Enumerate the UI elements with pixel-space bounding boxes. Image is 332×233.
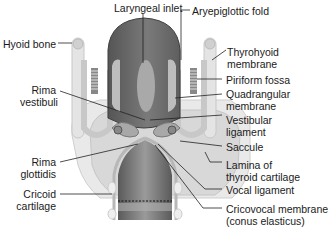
label-vocal-ligament: Vocal ligament (226, 184, 294, 196)
label-rima-vestibuli: Rima vestibuli (20, 84, 56, 108)
label-quadrangular-membrane: Quadrangular membrane (226, 88, 290, 112)
label-piriform-fossa: Piriform fossa (226, 74, 290, 86)
label-lamina-thyroid-cartilage: Lamina of thyroid cartilage (226, 159, 300, 183)
label-rima-glottidis: Rima glottidis (10, 156, 56, 180)
saccule-shape (168, 126, 176, 134)
label-saccule: Saccule (226, 141, 263, 153)
piriform-fossa-right (190, 68, 197, 94)
label-aryepiglottic-fold: Aryepiglottic fold (192, 5, 269, 17)
label-cricoid-cartilage: Cricoid cartilage (10, 188, 56, 212)
label-thyrohyoid-membrane: Thyrohyoid membrane (227, 46, 279, 70)
label-vestibular-ligament: Vestibular ligament (226, 114, 272, 138)
piriform-fossa-left (91, 68, 98, 94)
larynx-diagram: Laryngeal inlet Aryepiglottic fold Hyoid… (0, 0, 332, 233)
label-cricovocal-membrane: Cricovocal membrane (conus elasticus) (226, 203, 328, 227)
label-laryngeal-inlet: Laryngeal inlet (114, 2, 182, 14)
label-hyoid-bone: Hyoid bone (3, 38, 56, 50)
laryngeal-inlet-shape (108, 18, 180, 128)
